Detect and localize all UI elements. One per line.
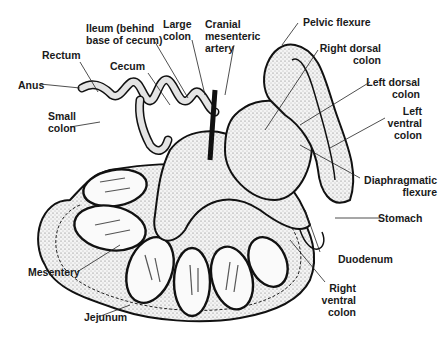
label-duodenum: Duodenum bbox=[338, 253, 393, 265]
label-diaphragmatic-flexure: Diaphragmatic flexure bbox=[355, 174, 437, 198]
label-cranial-mesenteric-artery: Cranial mesenteric artery bbox=[205, 18, 260, 54]
label-line: colon bbox=[318, 54, 381, 66]
label-line: Small bbox=[40, 110, 76, 122]
label-line: Left dorsal bbox=[360, 76, 420, 88]
label-line: Ileum (behind bbox=[86, 22, 162, 34]
label-line: Right bbox=[320, 282, 356, 294]
label-small-colon: Small colon bbox=[40, 110, 76, 134]
label-line: colon bbox=[360, 88, 420, 100]
label-stomach: Stomach bbox=[378, 212, 422, 224]
label-line: Diaphragmatic bbox=[355, 174, 437, 186]
label-large-colon: Large colon bbox=[163, 18, 192, 42]
label-right-dorsal-colon: Right dorsal colon bbox=[318, 42, 381, 66]
label-line: artery bbox=[205, 42, 260, 54]
label-jejunum: Jejunum bbox=[84, 311, 127, 323]
large-colon-shape bbox=[225, 45, 353, 203]
label-line: colon bbox=[320, 306, 356, 318]
label-line: colon bbox=[163, 30, 192, 42]
label-line: Large bbox=[163, 18, 192, 30]
label-line: colon bbox=[40, 122, 76, 134]
label-mesentery: Mesentery bbox=[28, 266, 80, 278]
label-line: Cranial bbox=[205, 18, 260, 30]
label-line: flexure bbox=[355, 186, 437, 198]
label-ileum: Ileum (behind base of cecum) bbox=[86, 22, 162, 46]
label-pelvic-flexure: Pelvic flexure bbox=[303, 16, 371, 28]
label-rectum: Rectum bbox=[42, 49, 81, 61]
label-line: Right dorsal bbox=[318, 42, 381, 54]
label-line: base of cecum) bbox=[86, 34, 162, 46]
label-line: colon bbox=[380, 129, 422, 141]
label-line: ventral bbox=[320, 294, 356, 306]
label-right-ventral-colon: Right ventral colon bbox=[320, 282, 356, 318]
label-left-ventral-colon: Left ventral colon bbox=[380, 105, 422, 141]
label-cecum: Cecum bbox=[110, 60, 145, 72]
label-line: Left bbox=[380, 105, 422, 117]
label-line: mesenteric bbox=[205, 30, 260, 42]
label-line: ventral bbox=[380, 117, 422, 129]
label-anus: Anus bbox=[18, 79, 44, 91]
label-left-dorsal-colon: Left dorsal colon bbox=[360, 76, 420, 100]
